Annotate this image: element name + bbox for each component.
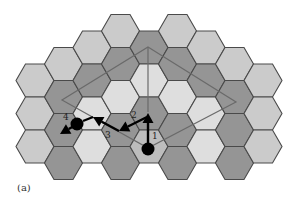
start-node — [142, 143, 155, 156]
step-label: 4 — [63, 112, 69, 122]
step-label: 2 — [131, 110, 137, 120]
end-node — [71, 118, 84, 131]
step-label: 1 — [152, 131, 158, 141]
step-label: 3 — [105, 130, 111, 140]
figure: 1234 (a) — [0, 0, 297, 203]
figure-caption: (a) — [17, 182, 31, 193]
hex-grid-diagram: 1234 (a) — [0, 0, 297, 203]
